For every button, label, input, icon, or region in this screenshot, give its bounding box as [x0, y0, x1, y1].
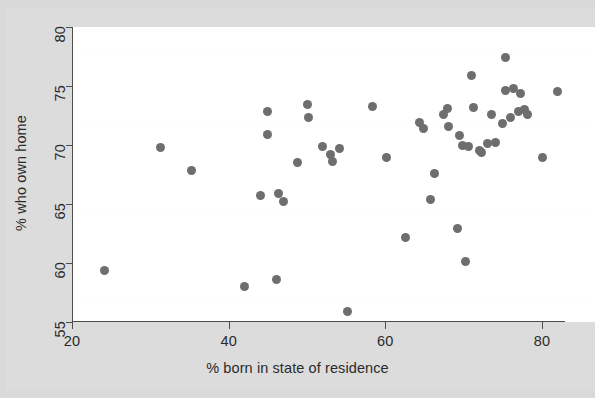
figure-page: 55606570758020406080 % who own home % bo…: [0, 0, 595, 398]
y-axis-title: % who own home: [13, 73, 29, 273]
scan-grain-line: [0, 378, 595, 379]
plot-area: [72, 27, 565, 322]
y-axis-tick-label: 70: [52, 144, 68, 161]
y-axis-tick-label: 80: [52, 26, 68, 43]
scan-grain-line: [0, 213, 595, 214]
scan-grain-line: [0, 298, 595, 299]
scan-grain-line: [0, 352, 595, 353]
scan-grain-line: [0, 127, 595, 128]
x-axis-tick: [385, 322, 386, 329]
x-axis-tick: [229, 322, 230, 329]
x-axis-tick: [542, 322, 543, 329]
x-axis-title: % born in state of residence: [0, 360, 595, 376]
x-axis-tick-label: 80: [534, 333, 551, 349]
x-axis-tick-label: 60: [377, 333, 394, 349]
y-axis-tick-label: 65: [52, 203, 68, 220]
x-axis-tick-label: 20: [64, 333, 81, 349]
plot-area-bleed: [565, 27, 595, 322]
x-axis-tick-label: 40: [220, 333, 237, 349]
scan-grain-line: [0, 48, 595, 49]
y-axis-tick-label: 75: [52, 85, 68, 102]
y-axis-tick-label: 60: [52, 262, 68, 279]
x-axis-tick: [72, 322, 73, 329]
